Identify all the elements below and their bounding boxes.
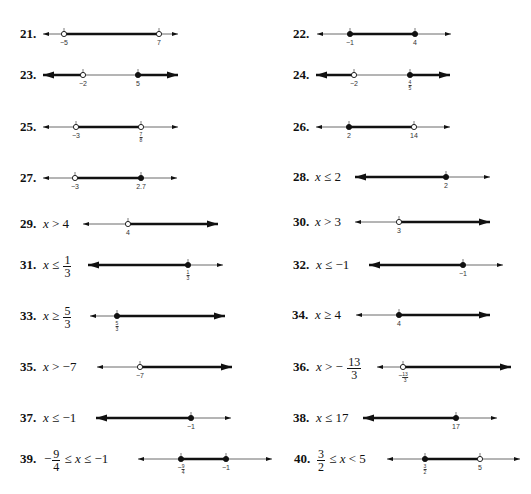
- number-line: [90, 310, 225, 320]
- right-arrow-icon: [514, 457, 520, 461]
- fraction: 53: [63, 305, 71, 330]
- right-arrow-icon: [171, 176, 177, 180]
- closed-endpoint-icon: [412, 31, 417, 36]
- tick-label: 5: [478, 464, 482, 471]
- tick-label: −5: [60, 39, 68, 46]
- closed-endpoint-icon: [185, 262, 190, 267]
- left-arrow-icon: [96, 415, 107, 422]
- closed-endpoint-icon: [453, 415, 458, 420]
- right-arrow-icon: [172, 125, 178, 129]
- left-arrow-icon: [355, 174, 366, 181]
- inequality-expression: x ≤ 17: [316, 411, 348, 424]
- fraction: 32: [317, 448, 325, 473]
- right-arrow-icon: [479, 219, 490, 226]
- problem-number: 38.: [293, 411, 309, 424]
- left-arrow-icon: [317, 32, 323, 36]
- problem-number: 26.: [293, 120, 309, 133]
- closed-endpoint-icon: [178, 456, 183, 461]
- tick-label: 5: [136, 80, 140, 87]
- left-arrow-icon: [88, 262, 99, 269]
- right-arrow-icon: [266, 457, 272, 461]
- problem-number: 25.: [20, 120, 36, 133]
- number-line: [138, 453, 272, 462]
- closed-endpoint-icon: [114, 313, 119, 318]
- fraction: 13: [63, 254, 71, 279]
- number-line: [43, 69, 178, 79]
- left-arrow-icon: [355, 220, 361, 224]
- right-arrow-icon: [439, 72, 450, 79]
- number-line: [83, 218, 218, 228]
- number-line: [316, 69, 450, 79]
- closed-endpoint-icon: [138, 175, 143, 180]
- right-arrow-icon: [445, 32, 451, 36]
- open-endpoint-icon: [72, 175, 77, 180]
- tick-label: 78: [140, 132, 143, 143]
- tick-label: 45: [409, 80, 412, 91]
- tick-label: 32: [424, 464, 427, 475]
- right-arrow-icon: [497, 263, 503, 267]
- right-arrow-icon: [479, 312, 490, 319]
- left-arrow-icon: [43, 176, 49, 180]
- open-endpoint-icon: [400, 364, 405, 369]
- closed-endpoint-icon: [223, 456, 228, 461]
- tick-label: 53: [116, 321, 119, 332]
- left-arrow-icon: [43, 125, 49, 129]
- tick-label: 4: [397, 320, 401, 327]
- problem-number: 32.: [293, 258, 309, 271]
- inequality-expression: 32 ≤ x < 5: [316, 446, 366, 473]
- open-endpoint-icon: [125, 221, 130, 226]
- left-arrow-icon: [138, 457, 144, 461]
- tick-label: −1: [222, 464, 230, 471]
- left-arrow-icon: [97, 365, 103, 369]
- left-arrow-icon: [316, 125, 322, 129]
- number-line: [363, 412, 497, 422]
- problem-number: 37.: [20, 411, 36, 424]
- tick-label: 4: [413, 39, 417, 46]
- problem-number: 23.: [20, 68, 36, 81]
- number-line: [97, 361, 232, 371]
- tick-label: −3: [72, 132, 80, 139]
- open-endpoint-icon: [477, 456, 482, 461]
- number-line: [43, 121, 178, 130]
- right-arrow-icon: [172, 32, 178, 36]
- tick-label: −94: [178, 464, 185, 475]
- open-endpoint-icon: [411, 124, 416, 129]
- tick-label: −2: [350, 80, 358, 87]
- number-line: [43, 28, 178, 37]
- closed-endpoint-icon: [443, 174, 448, 179]
- problem-number: 34.: [292, 308, 308, 321]
- open-endpoint-icon: [80, 72, 85, 77]
- inequality-expression: x ≤ 13: [43, 252, 72, 279]
- closed-endpoint-icon: [347, 31, 352, 36]
- inequality-expression: x > − 133: [316, 354, 362, 381]
- inequality-expression: −94 ≤ x ≤ −1: [44, 446, 108, 473]
- tick-label: −133: [398, 372, 408, 383]
- closed-endpoint-icon: [346, 124, 351, 129]
- closed-endpoint-icon: [407, 72, 412, 77]
- problem-number: 40.: [294, 452, 310, 465]
- number-line: [317, 28, 451, 37]
- right-arrow-icon: [225, 416, 231, 420]
- inequality-expression: x ≥ 4: [315, 308, 341, 321]
- open-endpoint-icon: [396, 219, 401, 224]
- tick-label: 3: [397, 227, 401, 234]
- problem-number: 29.: [20, 217, 36, 230]
- tick-label: 7: [157, 39, 161, 46]
- open-endpoint-icon: [351, 72, 356, 77]
- number-line: [88, 259, 223, 269]
- closed-endpoint-icon: [396, 312, 401, 317]
- left-arrow-icon: [43, 72, 54, 79]
- problem-number: 22.: [293, 27, 309, 40]
- tick-label: 4: [126, 229, 130, 236]
- left-arrow-icon: [316, 72, 327, 79]
- left-arrow-icon: [90, 314, 96, 318]
- fraction: 94: [52, 448, 60, 473]
- open-endpoint-icon: [138, 124, 143, 129]
- open-endpoint-icon: [73, 124, 78, 129]
- problem-number: 39.: [20, 452, 36, 465]
- left-arrow-icon: [43, 32, 49, 36]
- right-arrow-icon: [167, 72, 178, 79]
- tick-label: −3: [71, 183, 79, 190]
- number-line: [369, 259, 503, 269]
- number-line: [356, 309, 490, 319]
